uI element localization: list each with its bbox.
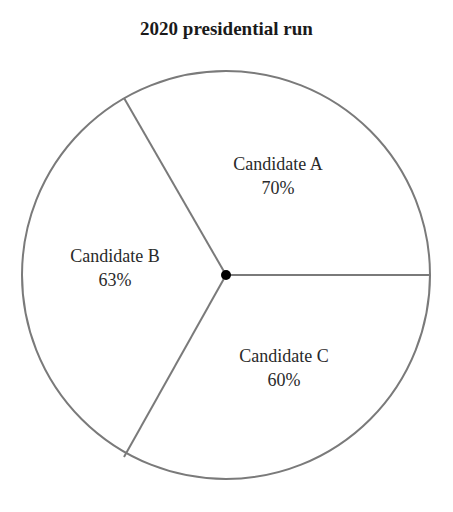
- slice-name: Candidate A: [198, 152, 358, 176]
- slice-name: Candidate C: [204, 344, 364, 368]
- slice-value: 70%: [198, 176, 358, 200]
- slice-label-c: Candidate C 60%: [204, 344, 364, 392]
- slice-label-a: Candidate A 70%: [198, 152, 358, 200]
- slice-name: Candidate B: [35, 244, 195, 268]
- slice-value: 60%: [204, 368, 364, 392]
- slice-value: 63%: [35, 268, 195, 292]
- center-dot: [221, 270, 231, 280]
- slice-label-b: Candidate B 63%: [35, 244, 195, 292]
